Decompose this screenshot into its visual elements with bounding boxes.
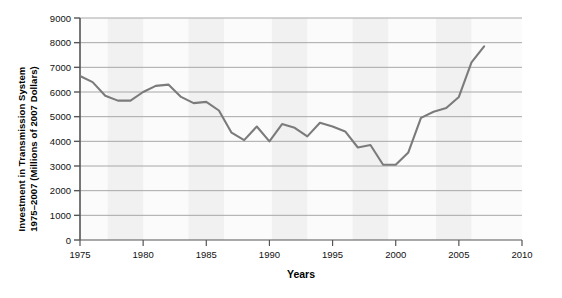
y-tick-label: 7000 [50, 62, 71, 73]
x-tick-label: 2000 [385, 249, 406, 260]
background-band [189, 18, 224, 240]
x-axis-title: Years [78, 268, 524, 280]
chart-container: Investment in Transmission System 1975–2… [0, 0, 562, 298]
x-tick-label: 1975 [69, 249, 90, 260]
y-tick-label: 3000 [50, 161, 71, 172]
x-tick-label: 2010 [511, 249, 532, 260]
background-band [353, 18, 388, 240]
background-band [436, 18, 471, 240]
x-tick-label: 1990 [259, 249, 280, 260]
background-band [108, 18, 143, 240]
y-tick-label: 5000 [50, 111, 71, 122]
y-tick-label: 0 [66, 235, 71, 246]
y-tick-label: 8000 [50, 37, 71, 48]
x-tick-label: 2005 [448, 249, 469, 260]
y-tick-label: 9000 [50, 13, 71, 24]
x-tick-label: 1980 [133, 249, 154, 260]
y-tick-label: 2000 [50, 185, 71, 196]
line-chart-plot: 0100020003000400050006000700080009000197… [0, 0, 562, 298]
x-tick-label: 1995 [322, 249, 343, 260]
x-tick-label: 1985 [196, 249, 217, 260]
y-tick-label: 4000 [50, 136, 71, 147]
y-tick-label: 6000 [50, 87, 71, 98]
y-tick-label: 1000 [50, 210, 71, 221]
